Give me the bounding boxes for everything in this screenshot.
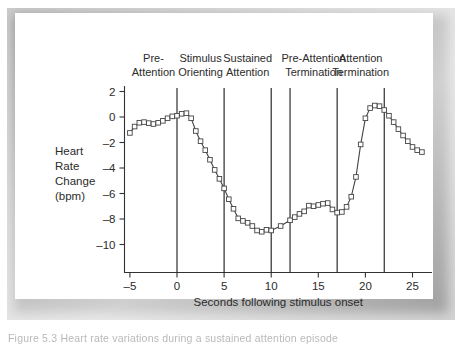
data-point-marker xyxy=(179,112,184,117)
data-point-marker xyxy=(377,104,382,109)
data-point-marker xyxy=(316,203,321,208)
data-point-marker xyxy=(132,124,137,129)
figure-caption: Figure 5.3 Heart rate variations during … xyxy=(8,332,428,344)
data-point-marker xyxy=(321,201,326,206)
data-point-marker xyxy=(354,175,359,180)
data-point-marker xyxy=(368,106,373,111)
phase-label-pre-attention-line2: Attention xyxy=(132,66,175,78)
data-point-marker xyxy=(165,116,170,121)
data-point-marker xyxy=(198,139,203,144)
x-tick-label: 0 xyxy=(174,280,180,292)
y-tick-label: –8 xyxy=(103,213,116,225)
series-line xyxy=(130,106,422,232)
data-point-marker xyxy=(161,119,166,124)
data-point-marker xyxy=(194,129,199,134)
data-point-marker xyxy=(302,209,307,214)
x-tick-label: –5 xyxy=(124,280,137,292)
y-tick-label: 0 xyxy=(109,111,115,123)
data-point-marker xyxy=(231,207,236,212)
data-point-marker xyxy=(288,218,293,223)
phase-label-pre-attention-termination: Pre-Attention xyxy=(281,52,345,64)
data-point-marker xyxy=(340,210,345,215)
data-point-marker xyxy=(245,221,250,226)
data-point-marker xyxy=(363,116,368,121)
data-point-marker xyxy=(128,131,133,136)
y-tick-label: –6 xyxy=(103,188,116,200)
x-tick-label: 15 xyxy=(312,280,325,292)
data-point-marker xyxy=(227,197,232,202)
data-point-marker xyxy=(391,120,396,125)
heart-rate-chart: –5051015202520–2–4–6–8–10HeartRateChange… xyxy=(0,0,476,358)
y-tick-label: 2 xyxy=(109,86,115,98)
x-tick-label: 20 xyxy=(359,280,372,292)
data-point-marker xyxy=(208,157,213,162)
data-point-marker xyxy=(420,150,425,155)
data-point-marker xyxy=(203,148,208,153)
phase-label-stimulus-orienting: Stimulus xyxy=(179,52,222,64)
data-point-marker xyxy=(255,228,260,233)
data-point-marker xyxy=(175,113,180,118)
y-tick-label: –2 xyxy=(103,137,116,149)
data-point-marker xyxy=(396,127,401,132)
data-point-marker xyxy=(335,210,340,215)
data-point-marker xyxy=(156,120,161,125)
phase-label-stimulus-orienting-line2: Orienting xyxy=(178,66,223,78)
data-point-marker xyxy=(373,103,378,108)
data-point-marker xyxy=(349,194,354,199)
data-point-marker xyxy=(151,122,156,127)
y-axis-title-line: Change xyxy=(55,175,95,187)
x-tick-label: 25 xyxy=(406,280,419,292)
data-point-marker xyxy=(325,201,330,206)
figure-root: –5051015202520–2–4–6–8–10HeartRateChange… xyxy=(0,0,476,358)
y-tick-label: –10 xyxy=(96,239,115,251)
data-point-marker xyxy=(292,215,297,220)
data-point-marker xyxy=(387,113,392,118)
data-point-marker xyxy=(405,139,410,144)
data-point-marker xyxy=(382,108,387,113)
data-point-marker xyxy=(415,148,420,153)
y-axis-title-line: Rate xyxy=(55,160,79,172)
data-point-marker xyxy=(142,120,147,125)
data-point-marker xyxy=(241,219,246,224)
phase-label-sustained-attention-line2: Attention xyxy=(226,66,269,78)
data-point-marker xyxy=(170,114,175,119)
phase-label-sustained-attention: Sustained xyxy=(223,52,272,64)
y-axis-title-line: Heart xyxy=(55,145,84,157)
data-point-marker xyxy=(278,224,283,229)
x-tick-label: 10 xyxy=(265,280,278,292)
data-point-marker xyxy=(137,120,142,125)
y-axis-title-line: (bpm) xyxy=(55,190,85,202)
x-tick-label: 5 xyxy=(221,280,227,292)
data-point-marker xyxy=(236,216,241,221)
data-point-marker xyxy=(307,203,312,208)
y-tick-label: –4 xyxy=(103,162,116,174)
data-point-marker xyxy=(222,186,227,191)
data-point-marker xyxy=(212,168,217,173)
data-point-marker xyxy=(189,116,194,121)
data-point-marker xyxy=(410,145,415,150)
phase-label-pre-attention: Pre- xyxy=(143,52,164,64)
data-point-marker xyxy=(401,133,406,138)
data-point-marker xyxy=(297,212,302,217)
phase-label-attention-termination: Attention xyxy=(339,52,382,64)
phase-label-attention-termination-line2: Termination xyxy=(332,66,389,78)
data-point-marker xyxy=(217,177,222,182)
data-point-marker xyxy=(259,229,264,234)
data-point-marker xyxy=(344,205,349,210)
data-point-marker xyxy=(269,228,274,233)
x-axis-title: Seconds following stimulus onset xyxy=(194,296,364,308)
data-point-marker xyxy=(250,224,255,229)
data-point-marker xyxy=(264,228,269,233)
data-point-marker xyxy=(311,204,316,209)
data-point-marker xyxy=(330,207,335,212)
data-point-marker xyxy=(146,121,151,126)
data-point-marker xyxy=(184,111,189,116)
data-point-marker xyxy=(358,142,363,147)
